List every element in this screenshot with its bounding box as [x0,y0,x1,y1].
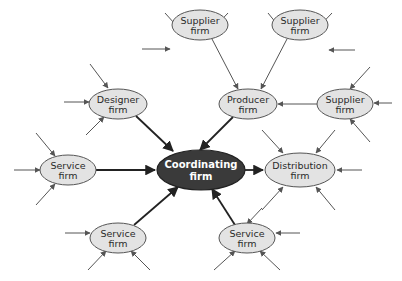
node-label-line2: firm [238,238,257,249]
node-label-line2: firm [191,25,210,36]
node-label-line2: firm [291,170,310,181]
node-service_bottom_left: Servicefirm [90,223,146,253]
node-service_left: Servicefirm [40,155,96,185]
incoming-arrow [90,64,108,88]
node-label-line1: Supplier [180,15,219,26]
link-service_bottom_left-to-coordinating [134,187,178,225]
node-label-line1: Supplier [325,94,364,105]
coordinating-firm-node: Coordinating firm [157,150,245,190]
node-label-line1: Service [50,160,85,171]
incoming-arrow [316,130,335,153]
node-label-line1: Producer [227,94,269,105]
node-producer: Producerfirm [219,89,277,119]
node-supplier3: Supplierfirm [317,89,373,119]
incoming-arrows-layer [14,13,392,270]
node-service_bottom_right: Servicefirm [219,223,275,253]
incoming-arrow [247,208,262,224]
incoming-arrow [214,251,235,270]
node-label-line2: firm [109,104,128,115]
node-label-line2: firm [59,170,78,181]
node-supplier1: Supplierfirm [172,10,228,40]
incoming-arrow [131,251,150,270]
node-distribution: Distributionfirm [265,153,335,187]
link-producer-to-coordinating [200,117,233,150]
node-label-line1: Service [229,228,264,239]
coordinating-firm-ellipse [157,150,245,190]
node-label-line2: firm [109,238,128,249]
incoming-arrow [260,251,280,270]
incoming-arrow [350,119,370,142]
incoming-arrow [316,187,335,210]
node-label-line2: firm [336,104,355,115]
link-designer-to-coordinating [136,116,173,151]
incoming-arrow [88,251,106,270]
node-label-line1: Service [100,228,135,239]
incoming-arrow [86,117,104,135]
coordinating-firm-label-line1: Coordinating [165,159,238,170]
coordinating-firm-label-line2: firm [190,171,213,182]
node-label-line2: firm [291,25,310,36]
node-label-line2: firm [239,104,258,115]
incoming-arrow [36,133,55,156]
firm-network-diagram: SupplierfirmSupplierfirmDesignerfirmProd… [0,0,402,281]
node-label-line1: Designer [97,94,140,105]
incoming-arrow [262,187,283,210]
node-label-line1: Supplier [280,15,319,26]
node-designer: Designerfirm [89,89,147,119]
incoming-arrow [262,130,283,153]
link-supplier1-to-producer [212,39,238,89]
link-supplier2-to-producer [261,39,287,89]
link-service_bottom_right-to-coordinating [212,189,235,225]
incoming-arrow [36,184,55,205]
node-supplier2: Supplierfirm [272,10,328,40]
incoming-arrow [350,67,370,89]
node-label-line1: Distribution [272,160,327,171]
